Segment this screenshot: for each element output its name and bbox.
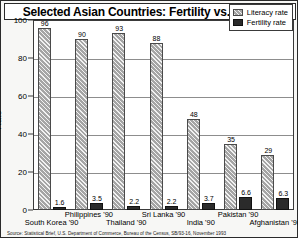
legend-item-fertility: Fertility rate bbox=[233, 18, 288, 27]
bar-value-label-literacy: 29 bbox=[264, 147, 272, 154]
bar-value-label-literacy: 90 bbox=[78, 31, 86, 38]
x-axis-label: India '90 bbox=[187, 218, 215, 227]
y-axis-title: Rate bbox=[0, 110, 3, 129]
bars-layer: 961.6903.5932.2882.2483.7356.6296.3 bbox=[33, 20, 294, 210]
bar-value-label-fertility: 2.2 bbox=[129, 198, 139, 205]
bar-fertility bbox=[90, 203, 103, 210]
bar-literacy bbox=[112, 33, 125, 210]
chart-page: Selected Asian Countries: Fertility vs. … bbox=[0, 0, 298, 238]
legend-label-fertility: Fertility rate bbox=[247, 18, 286, 27]
bar-value-label-literacy: 48 bbox=[190, 111, 198, 118]
bar-fertility bbox=[202, 203, 215, 210]
bar-literacy bbox=[38, 28, 51, 210]
legend-swatch-fertility-icon bbox=[233, 19, 243, 26]
legend-swatch-literacy-icon bbox=[233, 9, 243, 16]
x-axis-labels: South Korea '90Philippines '90Thailand '… bbox=[33, 210, 294, 230]
y-tick-label: 20 bbox=[18, 168, 27, 177]
bar-value-label-fertility: 3.5 bbox=[92, 195, 102, 202]
source-note: Source: Statistical Brief, U.S. Departme… bbox=[7, 231, 226, 236]
bar-literacy bbox=[187, 119, 200, 210]
bar-value-label-literacy: 96 bbox=[41, 20, 49, 27]
bar-literacy bbox=[150, 43, 163, 210]
y-tick-label: 0 bbox=[23, 206, 27, 215]
bar-value-label-fertility: 2.2 bbox=[167, 198, 177, 205]
bar-value-label-literacy: 93 bbox=[115, 25, 123, 32]
y-tick-label: 80 bbox=[18, 54, 27, 63]
y-tick-label: 40 bbox=[18, 130, 27, 139]
bar-value-label-literacy: 88 bbox=[153, 35, 161, 42]
x-axis-label: Thailand '90 bbox=[106, 218, 147, 227]
bar-literacy bbox=[75, 39, 88, 210]
bar-fertility bbox=[276, 198, 289, 210]
x-axis-label: Afghanistan '90 bbox=[250, 218, 298, 227]
y-axis: Rate 020406080100 bbox=[1, 20, 33, 210]
bar-literacy bbox=[224, 144, 237, 211]
bar-value-label-fertility: 6.6 bbox=[241, 189, 251, 196]
bar-value-label-fertility: 3.7 bbox=[204, 195, 214, 202]
bar-value-label-literacy: 35 bbox=[227, 136, 235, 143]
legend-item-literacy: Literacy rate bbox=[233, 8, 288, 17]
legend-label-literacy: Literacy rate bbox=[247, 8, 288, 17]
bar-value-label-fertility: 6.3 bbox=[278, 190, 288, 197]
x-axis-label: South Korea '90 bbox=[25, 218, 79, 227]
chart-legend: Literacy rate Fertility rate bbox=[229, 4, 293, 31]
bar-fertility bbox=[239, 197, 252, 210]
x-axis-label: Sri Lanka '90 bbox=[142, 210, 186, 219]
y-tick-label: 60 bbox=[18, 92, 27, 101]
bar-literacy bbox=[261, 155, 274, 210]
y-tick-label: 100 bbox=[14, 16, 27, 25]
bar-value-label-fertility: 1.6 bbox=[55, 199, 65, 206]
